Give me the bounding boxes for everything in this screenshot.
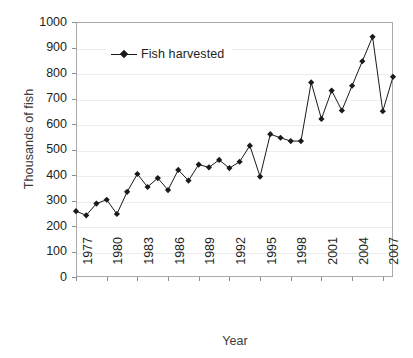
legend-diamond-marker-icon <box>111 49 137 60</box>
x-axis-title: Year <box>76 334 394 348</box>
x-axis-tick <box>229 277 230 281</box>
x-axis-tick <box>383 277 384 281</box>
x-axis-tick-label: 1983 <box>143 237 156 281</box>
x-axis-tick <box>76 277 77 281</box>
x-axis-tick-label: 1980 <box>112 237 125 281</box>
x-axis-tick <box>168 277 169 281</box>
x-axis-tick-label: 1998 <box>296 237 309 281</box>
x-axis-tick <box>352 277 353 281</box>
fish-harvested-line-chart: Thousands of fish 0100200300400500600700… <box>0 0 413 358</box>
x-axis-tick-label: 2007 <box>388 237 401 281</box>
x-axis-tick-label: 2004 <box>358 237 371 281</box>
x-axis-tick <box>199 277 200 281</box>
x-axis-tick-label: 1989 <box>204 237 217 281</box>
x-axis-tick-label: 1977 <box>82 237 95 281</box>
x-axis-tick <box>107 277 108 281</box>
x-axis-tick-label: 1992 <box>235 237 248 281</box>
x-axis-tick <box>260 277 261 281</box>
x-axis-tick-label: 1986 <box>174 237 187 281</box>
chart-legend: Fish harvested <box>106 44 232 64</box>
x-axis-tick-label: 1995 <box>266 237 279 281</box>
x-axis-tick-label: 2001 <box>327 237 340 281</box>
x-axis-tick <box>291 277 292 281</box>
legend-entry-label: Fish harvested <box>141 47 224 61</box>
x-axis-tick <box>321 277 322 281</box>
x-axis-tick <box>137 277 138 281</box>
